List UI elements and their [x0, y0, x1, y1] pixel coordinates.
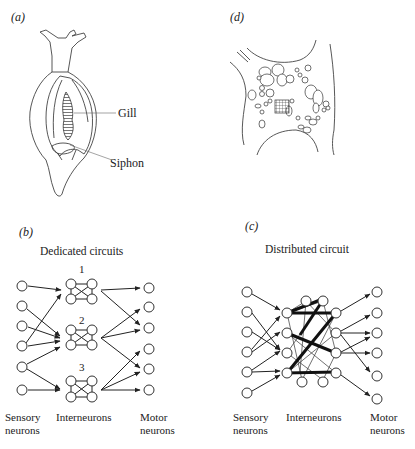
siphon-label: Siphon [110, 156, 144, 170]
b-motor-label-2: neurons [140, 424, 175, 436]
gill-label: Gill [118, 106, 137, 120]
recording-grid [275, 100, 289, 113]
motor-neurons [144, 283, 154, 395]
panel-a: (a) Gill Siphon [11, 10, 144, 196]
c-sensory-label-1: Sensory [233, 411, 269, 423]
c-sensory-label-2: neurons [233, 424, 268, 436]
ganglion-illustration [230, 40, 335, 155]
c-motor-neurons [372, 287, 382, 404]
c-inter-to-motor-arrows [341, 294, 370, 396]
sensory-neurons [17, 281, 27, 395]
panel-d: (d) [230, 10, 335, 155]
b-sensory-label-1: Sensory [5, 411, 41, 423]
c-motor-label-2: neurons [370, 424, 405, 436]
sensory-to-inter-arrows [26, 286, 61, 390]
circuit-1-number: 1 [79, 263, 85, 275]
c-sensory-to-inter-arrows [252, 294, 280, 391]
c-sensory-neurons [242, 287, 252, 398]
circuit-2-number: 2 [79, 314, 85, 326]
panel-c-title: Distributed circuit [265, 243, 350, 255]
c-inter-label: Interneurons [286, 411, 342, 423]
aplysia-illustration [30, 30, 116, 196]
panel-b-title: Dedicated circuits [40, 245, 124, 257]
panel-a-label: (a) [11, 10, 25, 24]
interneurons [66, 279, 97, 402]
panel-c: (c) Distributed circuit [233, 219, 405, 436]
panel-b: (b) Dedicated circuits 1 2 3 [5, 225, 175, 436]
panel-d-label: (d) [230, 10, 244, 24]
b-inter-label: Interneurons [56, 411, 112, 423]
b-sensory-label-2: neurons [5, 424, 40, 436]
panel-b-label: (b) [19, 225, 33, 239]
figure-canvas: (a) Gill Siphon (d) [0, 0, 415, 449]
siphon-pointer [70, 145, 112, 160]
inter-to-motor-arrows [101, 288, 140, 390]
c-motor-label-1: Motor [370, 411, 398, 423]
b-motor-label-1: Motor [140, 411, 168, 423]
panel-c-label: (c) [245, 219, 258, 233]
circuit-3-number: 3 [79, 361, 85, 373]
